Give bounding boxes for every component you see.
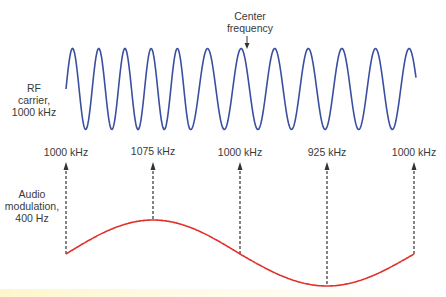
- arrowhead-icons: [64, 162, 417, 170]
- rf-carrier-label: RF carrier, 1000 kHz: [8, 82, 60, 118]
- rf-carrier-line-3: 1000 kHz: [8, 106, 60, 118]
- frequency-label: 925 kHz: [297, 146, 357, 158]
- audio-modulation-label: Audio modulation, 400 Hz: [2, 188, 62, 224]
- frequency-label: 1075 kHz: [123, 145, 183, 157]
- frequency-label: 1000 kHz: [384, 146, 444, 158]
- audio-modulation-line-1: Audio: [2, 188, 62, 200]
- center-frequency-label: Center frequency: [222, 10, 278, 34]
- frequency-label: 1000 kHz: [210, 146, 270, 158]
- center-frequency-line-2: frequency: [222, 22, 278, 34]
- caption-strip: [0, 289, 446, 297]
- frequency-label: 1000 kHz: [36, 146, 96, 158]
- rf-carrier-line-1: RF: [8, 82, 60, 94]
- center-frequency-line-1: Center: [222, 10, 278, 22]
- audio-modulation-line-2: modulation,: [2, 200, 62, 212]
- rf-carrier-wave: [66, 49, 416, 130]
- audio-modulation-line-3: 400 Hz: [2, 212, 62, 224]
- rf-carrier-line-2: carrier,: [8, 94, 60, 106]
